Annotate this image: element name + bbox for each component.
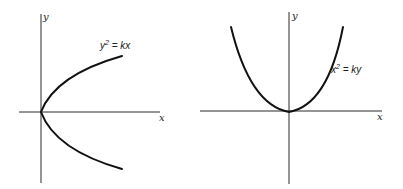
left-x-axis-label: x xyxy=(159,112,165,123)
left-graph: y x y2 = kx xyxy=(19,11,165,183)
right-equation-label: x2 = ky xyxy=(330,63,362,75)
left-eq-rest: = kx xyxy=(109,40,131,51)
right-graph: y x x2 = ky xyxy=(200,10,383,184)
right-x-axis-label: x xyxy=(377,111,383,122)
left-equation-label: y2 = kx xyxy=(99,39,131,51)
left-y-axis-label: y xyxy=(42,11,49,22)
right-eq-rest: = ky xyxy=(340,64,362,75)
parabola-diagrams: y x y2 = kx y x x2 = ky xyxy=(0,0,403,189)
right-y-axis-label: y xyxy=(291,10,298,21)
right-parabola-curve xyxy=(231,27,343,112)
